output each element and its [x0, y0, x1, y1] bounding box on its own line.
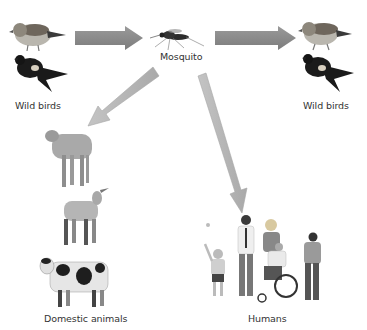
wild-birds-right-label: Wild birds — [303, 100, 349, 111]
arrow-mosquito-to-humans — [198, 73, 247, 213]
arrow-birds-to-mosquito — [75, 26, 143, 50]
humans-group-icon — [205, 215, 321, 302]
sheep-icon — [45, 130, 92, 187]
goat-icon — [64, 185, 109, 245]
domestic-animals-label: Domestic animals — [44, 313, 127, 324]
blackbird-icon — [302, 54, 354, 92]
cow-icon — [40, 258, 108, 307]
diagram-canvas — [0, 0, 367, 330]
humans-label: Humans — [248, 313, 287, 324]
arrow-mosquito-to-birds — [215, 26, 296, 50]
mosquito-icon — [150, 29, 204, 50]
arrow-mosquito-to-domestic — [88, 67, 159, 126]
mosquito-label: Mosquito — [160, 51, 202, 62]
sparrow-icon — [298, 22, 352, 50]
blackbird-icon — [14, 55, 68, 92]
wild-birds-left-label: Wild birds — [15, 100, 61, 111]
sparrow-icon — [9, 23, 66, 51]
